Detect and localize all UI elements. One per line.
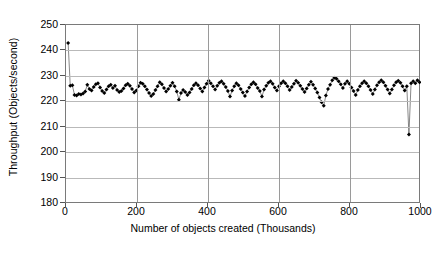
gridline-x-600: [279, 25, 280, 202]
y-tick-label-210: 210: [14, 121, 58, 131]
x-tick-mark-600: [278, 203, 279, 208]
y-tick-label-200: 200: [14, 146, 58, 156]
gridline-y-190: [66, 178, 419, 179]
chart-figure: Throughput (Objects/second) 250 240 230 …: [0, 0, 446, 258]
y-tick-label-190: 190: [14, 172, 58, 182]
gridline-y-220: [66, 101, 419, 102]
y-tick-label-250: 250: [14, 19, 58, 29]
plot-area: [65, 24, 420, 203]
gridline-x-200: [137, 25, 138, 202]
gridline-x-800: [350, 25, 351, 202]
y-tick-label-220: 220: [14, 95, 58, 105]
y-tick-label-240: 240: [14, 44, 58, 54]
gridline-x-400: [208, 25, 209, 202]
gridline-y-230: [66, 76, 419, 77]
x-tick-mark-1000: [420, 203, 421, 208]
x-tick-mark-200: [136, 203, 137, 208]
x-tick-mark-400: [207, 203, 208, 208]
x-axis-title: Number of objects created (Thousands): [0, 222, 446, 234]
gridline-y-210: [66, 127, 419, 128]
x-tick-mark-800: [349, 203, 350, 208]
x-tick-mark-0: [65, 203, 66, 208]
gridline-y-240: [66, 50, 419, 51]
gridline-y-200: [66, 152, 419, 153]
figure-caption: [0, 248, 446, 258]
y-tick-label-230: 230: [14, 70, 58, 80]
